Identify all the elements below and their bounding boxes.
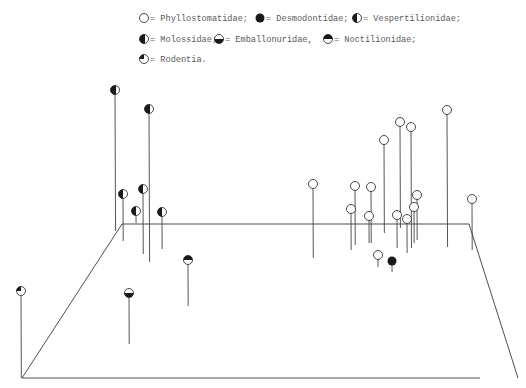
- phyllostomatidae-marker-icon: [347, 205, 356, 214]
- data-point: [393, 211, 402, 249]
- legend-marker-vespertilionidae-icon: [353, 14, 362, 23]
- data-points: [17, 86, 477, 379]
- data-point: [468, 195, 477, 251]
- data-point: [17, 287, 26, 379]
- data-point: [309, 180, 318, 259]
- data-point: [443, 106, 452, 248]
- vespertilionidae-marker-icon: [158, 208, 167, 217]
- legend-label-noctilionidae: = Noctilionidae;: [334, 35, 417, 45]
- legend-label-desmodontidae: = Desmodontidae;: [266, 14, 349, 24]
- data-point: [403, 215, 412, 254]
- series-phyllostomatidae: [309, 106, 477, 268]
- plot-box-frame: [22, 224, 518, 378]
- phyllostomatidae-marker-icon: [309, 180, 318, 189]
- molossidae-marker-icon: [145, 105, 154, 114]
- stem-plot-chart: = Phyllostomatidae; = Desmodontidae; = V…: [0, 0, 526, 388]
- data-point: [111, 86, 120, 232]
- legend-marker-molossidae-icon: [140, 35, 149, 44]
- noctilionidae-marker-icon: [184, 256, 193, 265]
- phyllostomatidae-marker-icon: [410, 203, 419, 212]
- data-point: [365, 212, 374, 244]
- legend: = Phyllostomatidae; = Desmodontidae; = V…: [140, 14, 462, 66]
- data-point: [125, 289, 134, 345]
- legend-row-1: = Phyllostomatidae; = Desmodontidae; = V…: [140, 14, 462, 25]
- phyllostomatidae-marker-icon: [403, 215, 412, 224]
- series-molossidae: [111, 86, 154, 263]
- phyllostomatidae-marker-icon: [365, 212, 374, 221]
- phyllostomatidae-marker-icon: [413, 191, 422, 200]
- phyllostomatidae-marker-icon: [367, 183, 376, 192]
- rodentia-marker-icon: [17, 287, 26, 296]
- phyllostomatidae-marker-icon: [443, 106, 452, 115]
- series-rodentia: [17, 287, 26, 379]
- series-desmodontidae: [388, 257, 397, 273]
- data-point: [380, 136, 389, 234]
- data-point: [139, 185, 148, 255]
- data-point: [347, 205, 356, 251]
- series-emballonuridae: [125, 289, 134, 345]
- legend-marker-rodentia-icon: [140, 55, 149, 64]
- legend-marker-desmodontidae-icon: [256, 14, 265, 23]
- legend-label-vespertilionidae: = Vespertilionidae;: [363, 14, 461, 24]
- legend-label-emballonuridae: = Emballonuridae,: [225, 35, 313, 45]
- emballonuridae-marker-icon: [125, 289, 134, 298]
- data-point: [374, 251, 383, 268]
- stem-line: [447, 114, 448, 247]
- vespertilionidae-marker-icon: [132, 207, 141, 216]
- vespertilionidae-marker-icon: [139, 185, 148, 194]
- stem-line: [115, 94, 116, 231]
- legend-label-molossidae: = Molossidae;: [150, 35, 217, 45]
- legend-row-3: = Rodentia.: [140, 55, 207, 66]
- phyllostomatidae-marker-icon: [396, 118, 405, 127]
- legend-marker-noctilionidae-icon: [324, 35, 333, 44]
- data-point: [119, 190, 128, 242]
- data-point: [132, 207, 141, 224]
- phyllostomatidae-marker-icon: [380, 136, 389, 145]
- legend-label-rodentia: = Rodentia.: [150, 55, 207, 65]
- phyllostomatidae-marker-icon: [468, 195, 477, 204]
- desmodontidae-marker-icon: [388, 257, 397, 266]
- legend-label-phyllostomatidae: = Phyllostomatidae;: [150, 14, 248, 24]
- stem-line: [149, 113, 150, 262]
- legend-row-2: = Molossidae; = Emballonuridae, = Noctil…: [140, 35, 417, 46]
- plot-box-back-edges: [22, 224, 518, 378]
- data-point: [158, 208, 167, 250]
- legend-marker-phyllostomatidae-icon: [140, 14, 149, 23]
- data-point: [145, 105, 154, 263]
- legend-marker-emballonuridae-icon: [215, 35, 224, 44]
- series-vespertilionidae: [119, 185, 167, 255]
- vespertilionidae-marker-icon: [119, 190, 128, 199]
- phyllostomatidae-marker-icon: [351, 182, 360, 191]
- molossidae-marker-icon: [111, 86, 120, 95]
- phyllostomatidae-marker-icon: [374, 251, 383, 260]
- phyllostomatidae-marker-icon: [407, 123, 416, 132]
- data-point: [184, 256, 193, 307]
- data-point: [388, 257, 397, 273]
- phyllostomatidae-marker-icon: [393, 211, 402, 220]
- series-noctilionidae: [184, 256, 193, 307]
